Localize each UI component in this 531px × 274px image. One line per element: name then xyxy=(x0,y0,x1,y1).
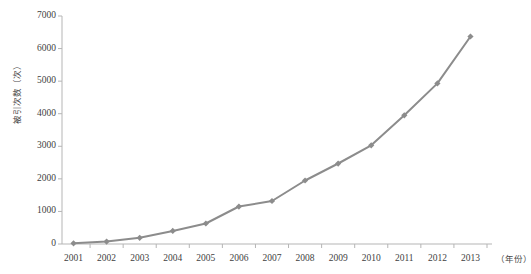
x-axis-tick-label: 2013 xyxy=(448,254,492,264)
x-axis-unit-label: （年份） xyxy=(496,255,531,264)
